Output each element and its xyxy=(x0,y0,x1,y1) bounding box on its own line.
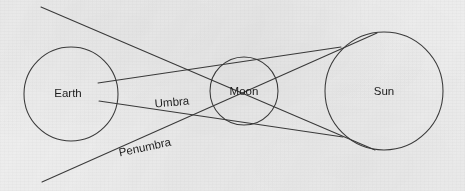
earth-label: Earth xyxy=(54,87,82,99)
sun-label: Sun xyxy=(374,85,394,97)
penumbra-upper-ray xyxy=(41,7,375,150)
eclipse-diagram: Earth Moon Sun Umbra Penumbra xyxy=(0,0,465,191)
zone-label-group: Umbra Penumbra xyxy=(118,95,191,159)
penumbra-lower-ray xyxy=(42,33,377,182)
umbra-label: Umbra xyxy=(154,95,190,110)
moon-label: Moon xyxy=(230,85,259,97)
umbra-lower-ray xyxy=(99,101,343,137)
body-label-group: Earth Moon Sun xyxy=(54,85,394,99)
diagram-canvas: Earth Moon Sun Umbra Penumbra xyxy=(0,0,465,191)
penumbra-label: Penumbra xyxy=(118,136,173,159)
ray-group xyxy=(41,7,377,182)
